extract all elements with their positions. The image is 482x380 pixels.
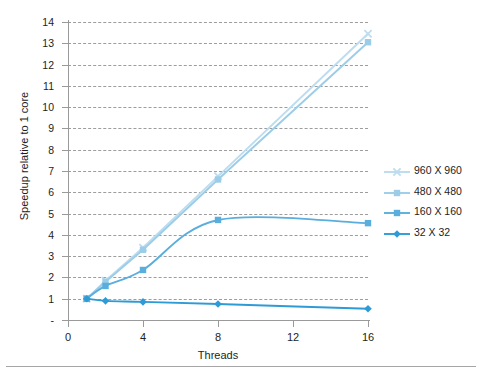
legend-label-0: 960 X 960 [410, 164, 462, 176]
legend-label-1: 480 X 480 [410, 185, 462, 197]
legend-swatch-square-icon [384, 185, 410, 197]
data-point-diamond [364, 305, 372, 313]
legend-swatch-square-icon [384, 205, 410, 217]
data-point-square [140, 247, 146, 253]
data-point-square [394, 190, 400, 196]
legend-label-3: 32 X 32 [410, 226, 450, 238]
data-point-square [365, 220, 371, 226]
legend-entry-1[interactable]: 480 X 480 [384, 181, 480, 202]
series-line-2 [87, 217, 368, 299]
data-point-square [102, 283, 108, 289]
bottom-divider [6, 366, 476, 367]
legend-label-2: 160 X 160 [410, 205, 462, 217]
data-point-square [140, 267, 146, 273]
data-point-diamond [139, 298, 147, 306]
data-point-square [215, 176, 221, 182]
data-point-square [365, 39, 371, 45]
data-point-x [364, 30, 371, 37]
legend-entry-2[interactable]: 160 X 160 [384, 201, 480, 222]
data-point-diamond [214, 300, 222, 308]
data-point-diamond [102, 297, 110, 305]
legend-swatch-diamond-icon [384, 226, 410, 238]
chart-legend: 960 X 960480 X 480160 X 16032 X 32 [384, 160, 480, 242]
data-point-square [215, 217, 221, 223]
chart-figure: -1234567891011121314 0481216 Threads Spe… [0, 0, 482, 380]
data-point-diamond [393, 230, 401, 238]
legend-entry-0[interactable]: 960 X 960 [384, 160, 480, 181]
series-line-3 [87, 299, 368, 309]
data-point-square [394, 210, 400, 216]
series-line-0 [87, 34, 368, 299]
legend-swatch-x-icon [384, 164, 410, 176]
legend-entry-3[interactable]: 32 X 32 [384, 222, 480, 243]
